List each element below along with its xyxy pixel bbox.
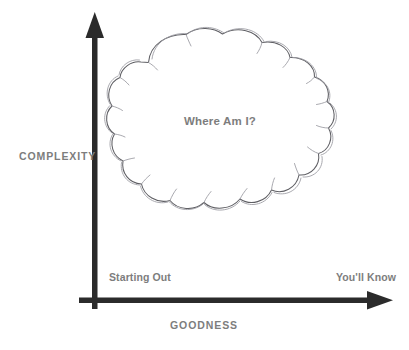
- x-axis-arrowhead: [367, 291, 393, 310]
- chart-canvas: COMPLEXITY GOODNESS Starting Out You'll …: [0, 0, 409, 350]
- y-axis-arrowhead: [86, 12, 105, 38]
- x-axis-tick-label-left: Starting Out: [109, 272, 171, 283]
- x-axis-line: [79, 298, 376, 304]
- x-axis: [79, 291, 393, 310]
- y-axis-line: [92, 30, 98, 309]
- y-axis-title: COMPLEXITY: [19, 151, 96, 162]
- x-axis-tick-label-right: You'll Know: [336, 272, 396, 283]
- cloud-annotation-label: Where Am I?: [184, 116, 256, 128]
- x-axis-title: GOODNESS: [170, 320, 238, 331]
- chart-graphics: [0, 0, 409, 350]
